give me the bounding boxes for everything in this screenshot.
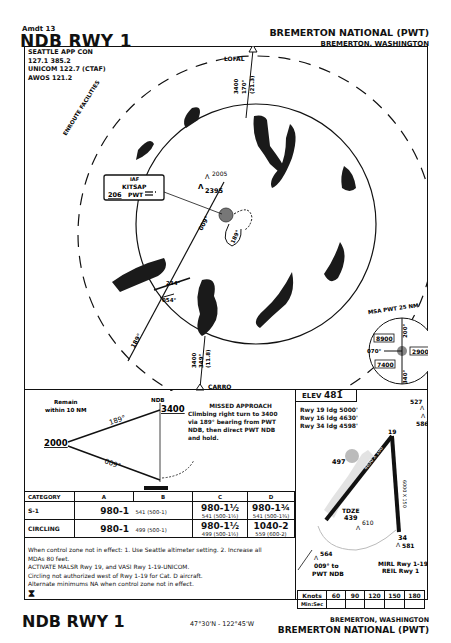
hold-altitude: 2000: [44, 438, 68, 448]
pt-out-course: 234°: [166, 280, 180, 286]
footer-city: BREMERTON, WASHINGTON: [330, 616, 429, 624]
speed-90: 90: [346, 591, 365, 600]
msa-title: MSA PWT 25 NM: [367, 302, 418, 315]
s1-d-mda: 980-1¾: [248, 503, 294, 513]
missed-hold-arc: [234, 210, 252, 230]
header-category: CATEGORY: [25, 492, 75, 502]
ndb-label: NDB: [151, 397, 165, 403]
missed-line: NDB, then direct PWT NDB: [188, 426, 293, 434]
s1-c: 980-1½541 (500-1½): [193, 502, 248, 520]
lofal-label: LOFAL: [224, 55, 245, 62]
header-c: C: [193, 492, 248, 502]
circ-d-mda: 1040-2: [248, 521, 294, 531]
obstacle-icon: Λ: [205, 173, 210, 181]
lofal-fix-icon: [249, 46, 257, 52]
header-d: D: [248, 492, 295, 502]
ndb-ident: PWT: [128, 191, 144, 198]
ndb-altitude: 3400: [161, 404, 185, 414]
time-cell: [385, 600, 405, 609]
circ-ab-hat: 499 (500-1): [135, 527, 166, 533]
missed-approach-text: MISSED APPROACH Climbing right turn to 3…: [188, 402, 293, 442]
missed-turn-arc: [162, 460, 194, 478]
ndb-name: PWT NDB: [312, 570, 344, 577]
s1-ab-mda: 980-1: [100, 506, 129, 516]
missed-line: and hold.: [188, 434, 293, 442]
rwy-19-label: 19: [388, 428, 396, 435]
speed-180: 180: [405, 591, 425, 600]
timing-table: Knots 60 90 120 150 180 Min:Sec: [297, 590, 425, 609]
footer-coordinates: 47°30'N - 122°45'W: [190, 620, 254, 628]
lofal-course: 170°: [241, 80, 247, 94]
header-a: A: [75, 492, 134, 502]
note-line: MDAs 80 feet.: [28, 555, 293, 564]
row-circling-label: CIRCLING: [25, 520, 75, 538]
unicom: UNICOM 122.7 (CTAF): [28, 65, 106, 74]
lofal-alt: 3400: [233, 79, 239, 94]
s1-ab-hat: 541 (500-1): [135, 509, 166, 515]
missed-title: MISSED APPROACH: [188, 402, 293, 410]
runway-dims-1: 6000 X 150: [402, 480, 407, 508]
approach-freqs: 127.1 385.2: [28, 57, 106, 66]
inbound-course: 009°: [197, 214, 210, 231]
note-line: Alternate minimums NA when control zone …: [28, 580, 293, 589]
speed-60: 60: [327, 591, 346, 600]
approach-control: SEATTLE APP CON: [28, 48, 106, 57]
speed-120: 120: [365, 591, 385, 600]
s1-d: 980-1¾541 (500-1¾): [248, 502, 295, 520]
radial-course: 189°: [129, 332, 142, 349]
time-cell: [346, 600, 365, 609]
obstacle-2005: 2005: [212, 170, 227, 177]
circ-c: 980-1½499 (500-1½): [193, 520, 248, 538]
msa-circle: MSA PWT 25 NM 8900 2900 7400 070° 200° 3…: [367, 302, 428, 384]
circ-d-hat: 559 (600-2): [248, 531, 294, 537]
footer-airport: BREMERTON NATIONAL (PWT): [278, 625, 429, 635]
minsec-label: Min:Sec: [298, 600, 327, 609]
lofal-dist: (21.3): [249, 75, 255, 94]
iaf-name: KITSAP: [122, 183, 147, 190]
time-cell: [365, 600, 385, 609]
obstacle-icon: Λ: [421, 412, 426, 419]
row-s1-label: S-1: [25, 502, 75, 520]
tdze-label: TDZE: [342, 507, 360, 514]
profile-inbound-course: 009°: [103, 457, 122, 470]
airport-diagram: 527 Λ Λ 586 4630 X 100 6000 X 150 19 34 …: [296, 390, 428, 590]
ndb-course: 009° to: [314, 562, 339, 569]
remain-within: within 10 NM: [45, 407, 87, 413]
circ-c-hat: 499 (500-1½): [193, 531, 247, 537]
ndb-icon: [219, 208, 233, 222]
missed-line: via 189° bearing from PWT: [188, 418, 293, 426]
minima-table: CATEGORY A B C D S-1 980-1 541 (500-1) 9…: [24, 491, 295, 538]
airport-name: BREMERTON NATIONAL (PWT): [269, 27, 429, 38]
awos: AWOS 121.2: [28, 74, 106, 83]
circ-ab: 980-1 499 (500-1): [75, 520, 193, 538]
s1-c-mda: 980-1½: [193, 503, 247, 513]
lighting-reil: REIL Rwy 1: [382, 567, 419, 575]
tdze-value: 439: [344, 514, 358, 522]
apron-circle: [345, 449, 359, 463]
msa-sector-sw: 7400: [377, 361, 394, 368]
circ-ab-mda: 980-1: [100, 524, 129, 534]
msa-bearing-070: 070°: [367, 348, 381, 354]
circ-c-mda: 980-1½: [193, 521, 247, 531]
speed-150: 150: [385, 591, 405, 600]
hourglass-icon: ⧗: [28, 589, 293, 599]
msa-sector-e: 2900: [412, 348, 428, 355]
obstacle-icon: Λ: [198, 183, 204, 191]
note-line: When control zone not in effect: 1. Use …: [28, 546, 293, 555]
obstacle-2395: 2395: [205, 187, 224, 195]
msa-bearing-340: 340°: [402, 370, 408, 384]
obstacle-586: 586: [416, 420, 428, 427]
outbound-course: 189°: [229, 229, 241, 245]
iaf-label: IAF: [130, 176, 139, 182]
ndb-bearing-line: [298, 550, 312, 570]
time-cell: [405, 600, 425, 609]
obstacle-icon: Λ: [420, 404, 425, 411]
plan-view: LOFAL 3400 170° (21.3) CARRO 3400 349° (…: [24, 46, 428, 391]
runway-marker: [144, 486, 168, 490]
circ-d: 1040-2559 (600-2): [248, 520, 295, 538]
carro-course: 349°: [198, 354, 204, 368]
obstacle-564: 564: [320, 550, 333, 557]
msa-bearing-200: 200°: [402, 324, 408, 338]
obstacle-icon: Λ: [356, 524, 361, 531]
remain-label: Remain: [54, 399, 78, 405]
